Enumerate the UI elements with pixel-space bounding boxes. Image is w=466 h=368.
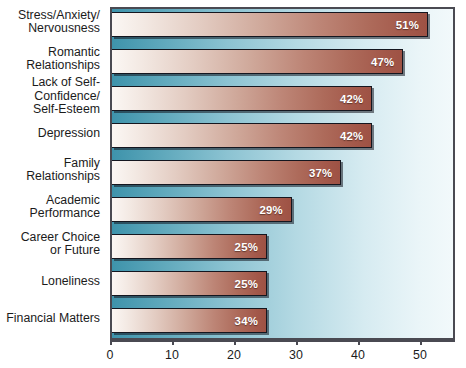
category-label-1: Stress/Anxiety/ Nervousness	[18, 9, 100, 36]
x-tick-label-50: 50	[413, 348, 427, 362]
category-label-9: Financial Matters	[6, 312, 100, 326]
x-tick-0	[110, 340, 112, 345]
plot-area: 51%47%42%42%37%29%25%25%34%	[110, 7, 455, 340]
bar-7: 25%	[112, 234, 267, 259]
category-label-2: Romantic Relationships	[26, 46, 100, 73]
bar-8: 25%	[112, 271, 267, 296]
bar-value-label: 42%	[340, 130, 363, 142]
bar-chart: Stress/Anxiety/ NervousnessRomantic Rela…	[0, 0, 466, 368]
x-tick-50	[420, 340, 422, 345]
bar-2: 47%	[112, 49, 403, 74]
bar-9: 34%	[112, 308, 267, 333]
x-tick-label-10: 10	[165, 348, 179, 362]
bar-value-label: 25%	[235, 278, 258, 290]
x-tick-label-20: 20	[227, 348, 241, 362]
x-axis-line	[110, 340, 455, 342]
bar-3: 42%	[112, 86, 372, 111]
bar-value-label: 29%	[259, 204, 282, 216]
bar-5: 37%	[112, 160, 341, 185]
x-tick-40	[358, 340, 360, 345]
category-label-6: Academic Performance	[30, 194, 100, 221]
category-label-5: Family Relationships	[26, 157, 100, 184]
bar-4: 42%	[112, 123, 372, 148]
x-tick-label-30: 30	[289, 348, 303, 362]
x-tick-label-40: 40	[351, 348, 365, 362]
category-label-7: Career Choice or Future	[21, 231, 100, 258]
category-label-8: Loneliness	[41, 275, 100, 289]
category-axis-labels: Stress/Anxiety/ NervousnessRomantic Rela…	[0, 0, 104, 341]
x-tick-30	[296, 340, 298, 345]
x-tick-label-0: 0	[107, 348, 114, 362]
bar-value-label: 37%	[309, 167, 332, 179]
category-label-3: Lack of Self- Confidence/ Self-Esteem	[32, 76, 100, 117]
category-label-4: Depression	[38, 127, 100, 141]
x-tick-20	[234, 340, 236, 345]
bar-value-label: 47%	[371, 56, 394, 68]
bar-6: 29%	[112, 197, 292, 222]
bar-value-label: 42%	[340, 93, 363, 105]
bar-value-label: 51%	[396, 19, 419, 31]
bar-value-label: 25%	[235, 241, 258, 253]
bar-1: 51%	[112, 12, 428, 37]
bar-value-label: 34%	[235, 315, 258, 327]
x-tick-10	[172, 340, 174, 345]
